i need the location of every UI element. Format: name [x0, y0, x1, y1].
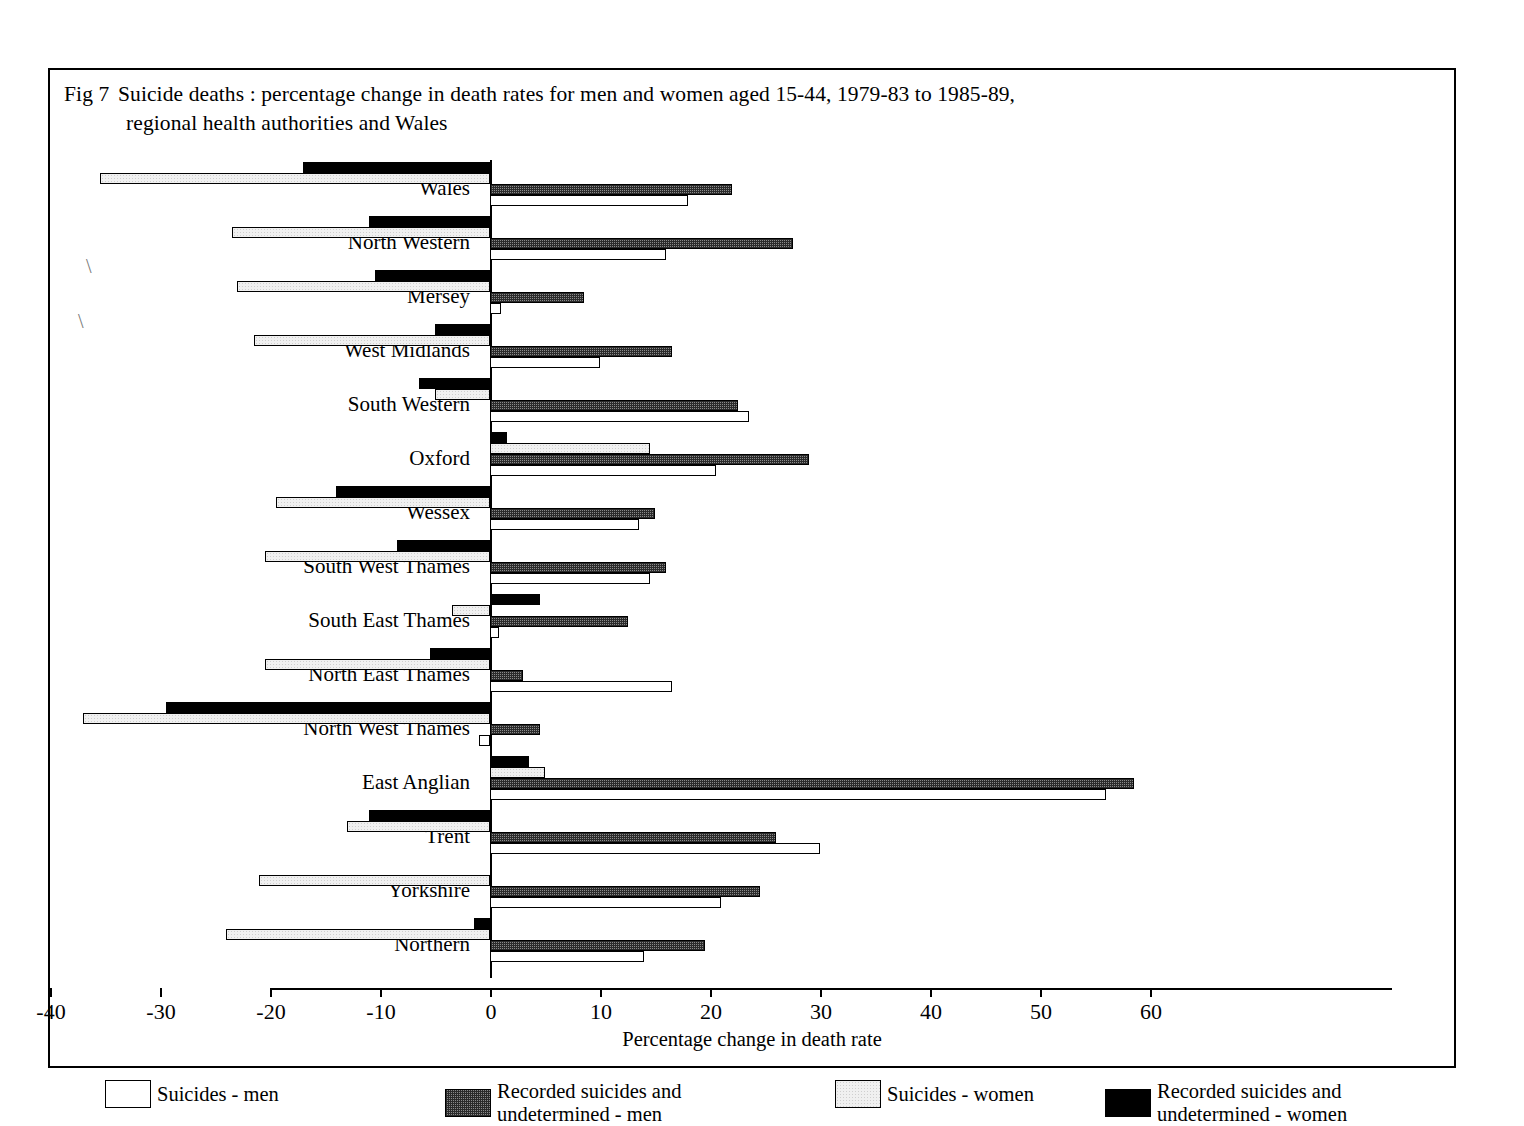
bar-group	[50, 484, 1454, 538]
bar-east-anglian-s0	[490, 756, 529, 767]
bar-group	[50, 592, 1454, 646]
legend-item-1[interactable]: Recorded suicides and undetermined - men	[445, 1080, 681, 1126]
x-tick-label--10: -10	[351, 999, 411, 1025]
chart-row: South West Thames	[50, 538, 1454, 592]
legend-label-2: Suicides - women	[887, 1083, 1034, 1106]
bar-wessex-s2	[490, 508, 655, 519]
x-tick-20	[710, 988, 712, 997]
bar-yorkshire-s2	[490, 886, 760, 897]
bar-south-western-s2	[490, 400, 738, 411]
x-tick-label-10: 10	[571, 999, 631, 1025]
plot: WalesNorth WesternMerseyWest MidlandsSou…	[50, 150, 1454, 975]
bar-oxford-s0	[490, 432, 507, 443]
chart-row: Mersey	[50, 268, 1454, 322]
bar-south-east-thames-s2	[490, 616, 628, 627]
bar-oxford-s3	[490, 465, 716, 476]
chart-row: Wessex	[50, 484, 1454, 538]
x-tick-label-20: 20	[681, 999, 741, 1025]
x-tick-label-30: 30	[791, 999, 851, 1025]
legend-item-0[interactable]: Suicides - men	[105, 1080, 279, 1108]
bar-south-western-s3	[490, 411, 749, 422]
x-axis-line	[270, 988, 1392, 990]
chart-row: Trent	[50, 808, 1454, 862]
figure-frame: Fig 7Suicide deaths : percentage change …	[48, 68, 1456, 1068]
bar-group	[50, 700, 1454, 754]
bar-group	[50, 808, 1454, 862]
bar-wales-s0	[303, 162, 490, 173]
bar-south-west-thames-s2	[490, 562, 666, 573]
bar-east-anglian-s3	[490, 789, 1106, 800]
bar-northern-s0	[474, 918, 491, 929]
x-axis-title: Percentage change in death rate	[50, 1028, 1454, 1051]
bar-east-anglian-s1	[490, 767, 545, 778]
x-tick-50	[1040, 988, 1042, 997]
bar-group	[50, 430, 1454, 484]
bar-north-east-thames-s1	[265, 659, 491, 670]
x-tick-label-0: 0	[461, 999, 521, 1025]
legend-item-3[interactable]: Recorded suicides and undetermined - wom…	[1105, 1080, 1347, 1126]
bar-north-western-s2	[490, 238, 793, 249]
bar-north-west-thames-s0	[166, 702, 491, 713]
x-tick-label-60: 60	[1121, 999, 1181, 1025]
bar-south-western-s0	[419, 378, 491, 389]
bar-wessex-s0	[336, 486, 490, 497]
bar-wales-s2	[490, 184, 732, 195]
bar-group	[50, 322, 1454, 376]
bar-yorkshire-s3	[490, 897, 721, 908]
bar-east-anglian-s2	[490, 778, 1134, 789]
legend-item-2[interactable]: Suicides - women	[835, 1080, 1034, 1108]
chart-row: South East Thames	[50, 592, 1454, 646]
x-tick--30	[160, 988, 162, 997]
bar-group	[50, 160, 1454, 214]
bar-group	[50, 754, 1454, 808]
bar-yorkshire-s1	[259, 875, 490, 886]
bar-trent-s0	[369, 810, 490, 821]
bar-northern-s2	[490, 940, 705, 951]
bar-oxford-s1	[490, 443, 650, 454]
bar-north-west-thames-s2	[490, 724, 540, 735]
bar-wales-s1	[100, 173, 491, 184]
x-tick-label--20: -20	[241, 999, 301, 1025]
bar-south-east-thames-s1	[452, 605, 491, 616]
bar-group	[50, 268, 1454, 322]
legend-label-1: Recorded suicides and undetermined - men	[497, 1080, 681, 1126]
bar-mersey-s0	[375, 270, 491, 281]
chart-row: Oxford	[50, 430, 1454, 484]
figure-title: Fig 7Suicide deaths : percentage change …	[64, 80, 1434, 138]
stray-pencil-mark-2: \	[78, 310, 84, 333]
chart-row: Northern	[50, 916, 1454, 970]
bar-trent-s1	[347, 821, 490, 832]
bar-north-east-thames-s2	[490, 670, 523, 681]
bar-south-west-thames-s3	[490, 573, 650, 584]
bar-west-midlands-s3	[490, 357, 600, 368]
x-tick-label--40: -40	[21, 999, 81, 1025]
bar-group	[50, 862, 1454, 916]
bar-south-western-s1	[435, 389, 490, 400]
chart-row: North West Thames	[50, 700, 1454, 754]
chart-row: South Western	[50, 376, 1454, 430]
bar-south-west-thames-s1	[265, 551, 491, 562]
bar-south-east-thames-s3	[490, 627, 499, 638]
bar-group	[50, 646, 1454, 700]
bar-trent-s3	[490, 843, 820, 854]
bar-north-west-thames-s3	[479, 735, 490, 746]
x-tick-label-50: 50	[1011, 999, 1071, 1025]
figure-title-line1: Suicide deaths : percentage change in de…	[118, 82, 1015, 106]
bar-north-east-thames-s0	[430, 648, 491, 659]
bar-north-western-s1	[232, 227, 491, 238]
bar-wessex-s3	[490, 519, 639, 530]
bar-oxford-s2	[490, 454, 809, 465]
bar-south-east-thames-s0	[490, 594, 540, 605]
legend-label-0: Suicides - men	[157, 1083, 279, 1106]
bar-northern-s1	[226, 929, 490, 940]
stray-pencil-mark-1: \	[86, 255, 92, 278]
bar-mersey-s1	[237, 281, 490, 292]
bar-north-western-s3	[490, 249, 666, 260]
legend-swatch-black	[1105, 1089, 1151, 1117]
chart-row: North Western	[50, 214, 1454, 268]
legend-swatch-dotted	[445, 1089, 491, 1117]
bar-wales-s3	[490, 195, 688, 206]
chart-row: Wales	[50, 160, 1454, 214]
bar-west-midlands-s0	[435, 324, 490, 335]
bar-group	[50, 214, 1454, 268]
